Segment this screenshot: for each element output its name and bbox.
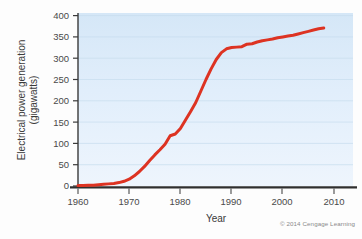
x-tick-label: 2010 bbox=[323, 196, 344, 207]
y-tick-label: 150 bbox=[53, 117, 69, 128]
x-tick-label: 1990 bbox=[220, 196, 241, 207]
y-axis-title-line2: (gigawatts) bbox=[28, 76, 39, 125]
y-tick-label: 250 bbox=[53, 74, 69, 85]
copyright-credit: © 2014 Cengage Learning bbox=[280, 220, 355, 227]
y-tick-label: 0 bbox=[64, 180, 69, 191]
plot-area-background bbox=[78, 13, 353, 186]
y-tick-label: 300 bbox=[53, 53, 69, 64]
line-chart: 400 350 300 250 200 150 100 50 0 1960 19… bbox=[0, 0, 362, 239]
y-tick-label: 100 bbox=[53, 138, 69, 149]
x-tick-label: 1980 bbox=[169, 196, 190, 207]
x-tick-label: 2000 bbox=[271, 196, 292, 207]
x-tick-label: 1970 bbox=[118, 196, 139, 207]
y-tick-label: 200 bbox=[53, 95, 69, 106]
y-tick-label: 350 bbox=[53, 31, 69, 42]
y-tick-label: 400 bbox=[53, 10, 69, 21]
x-tick-label: 1960 bbox=[67, 196, 88, 207]
y-axis-title-line1: Electrical power generation bbox=[16, 40, 27, 161]
figure-panel: 400 350 300 250 200 150 100 50 0 1960 19… bbox=[0, 0, 362, 239]
y-tick-label: 50 bbox=[58, 159, 69, 170]
x-axis-title: Year bbox=[206, 213, 227, 224]
